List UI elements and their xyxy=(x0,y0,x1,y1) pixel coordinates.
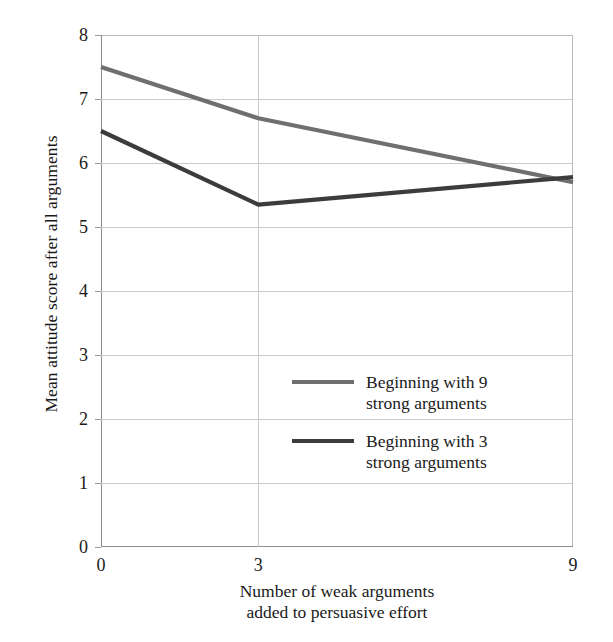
x-axis-title-line2: added to persuasive effort xyxy=(100,602,574,623)
x-axis-title: Number of weak arguments added to persua… xyxy=(100,581,574,623)
x-tick-label: 9 xyxy=(553,556,593,574)
y-tick-label: 7 xyxy=(60,90,88,108)
legend-entry[interactable]: Beginning with 3 strong arguments xyxy=(292,431,522,473)
x-tick-label: 3 xyxy=(238,556,278,574)
line-chart: Mean attitude score after all arguments … xyxy=(0,0,613,642)
y-axis-tick-labels: 876543210 xyxy=(60,0,88,642)
y-tick-label: 0 xyxy=(60,538,88,556)
y-tick-mark xyxy=(95,547,101,548)
x-axis-tick-labels: 039 xyxy=(0,556,613,580)
y-tick-label: 6 xyxy=(60,154,88,172)
legend-entry[interactable]: Beginning with 9 strong arguments xyxy=(292,372,522,414)
x-axis-title-line1: Number of weak arguments xyxy=(100,581,574,602)
y-tick-label: 5 xyxy=(60,218,88,236)
legend-line-swatch xyxy=(292,380,354,384)
y-tick-label: 2 xyxy=(60,410,88,428)
legend-label: Beginning with 9 strong arguments xyxy=(366,372,488,414)
legend-line-swatch xyxy=(292,439,354,443)
y-tick-label: 8 xyxy=(60,26,88,44)
legend-label: Beginning with 3 strong arguments xyxy=(366,431,488,473)
x-tick-label: 0 xyxy=(81,556,121,574)
y-tick-label: 3 xyxy=(60,346,88,364)
y-tick-label: 4 xyxy=(60,282,88,300)
y-tick-label: 1 xyxy=(60,474,88,492)
chart-legend: Beginning with 9 strong argumentsBeginni… xyxy=(292,372,522,490)
